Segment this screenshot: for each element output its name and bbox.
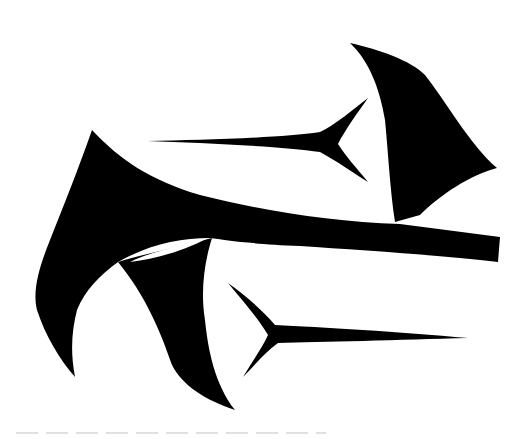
- upper-spur-stroke: [148, 98, 368, 182]
- top-right-wedge-stroke: [350, 43, 497, 222]
- scan-artifact-line: [16, 432, 326, 434]
- lower-spur-stroke: [228, 283, 468, 377]
- calligraphic-glyph: [0, 0, 530, 439]
- lower-left-leg-stroke: [118, 238, 235, 410]
- glyph-canvas: [0, 0, 530, 439]
